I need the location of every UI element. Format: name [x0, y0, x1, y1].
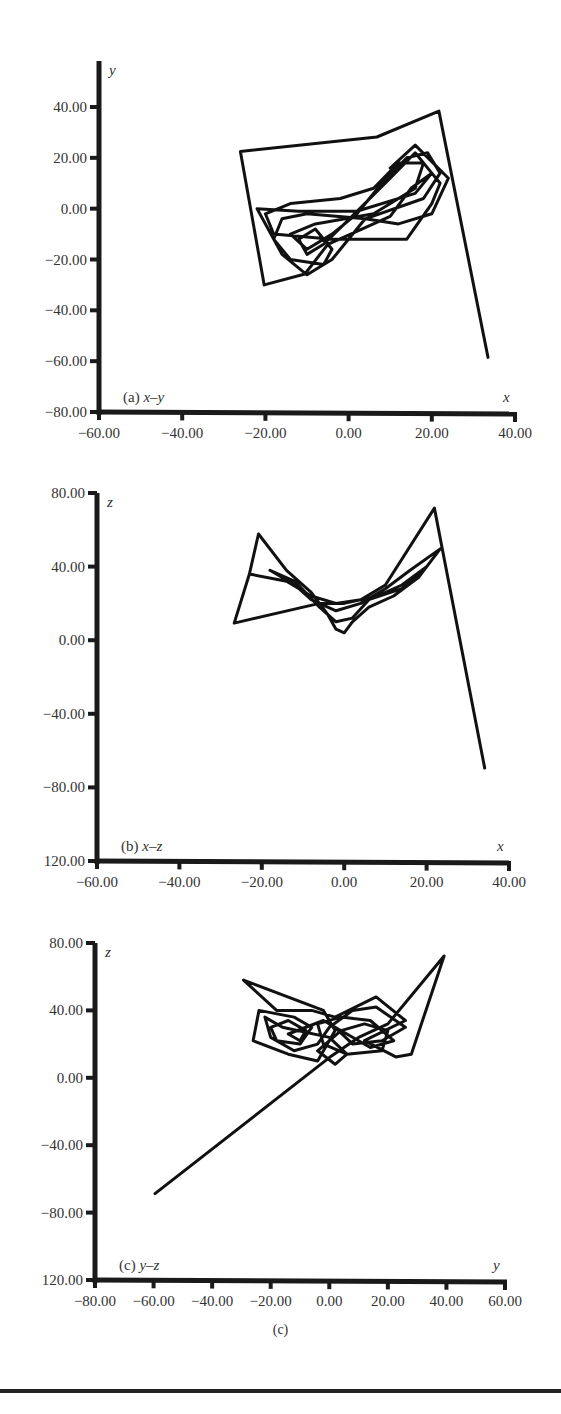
y-tick-label: −80.00 [41, 1205, 83, 1221]
trajectory-line [155, 956, 444, 1194]
x-tick-label: 60.00 [488, 1293, 522, 1309]
y-tick-label: 40.00 [49, 1002, 83, 1018]
chart-c-yz: 80.0040.000.00−40.00−80.00120.00−80.00−6… [0, 0, 561, 1320]
x-tick-label: −40.00 [191, 1293, 233, 1309]
x-tick-label: −20.00 [250, 1293, 292, 1309]
y-tick-label: −40.00 [41, 1137, 83, 1153]
figure-caption: (c) [0, 1322, 561, 1338]
panel-label: (c) y–z [119, 1257, 160, 1274]
y-tick-label: 120.00 [42, 1272, 83, 1288]
x-tick-label: −80.00 [74, 1293, 116, 1309]
y-tick-label: 0.00 [57, 1070, 83, 1086]
panel-c-yz: 80.0040.000.00−40.00−80.00120.00−80.00−6… [0, 0, 561, 1320]
x-tick-label: 20.00 [371, 1293, 405, 1309]
x-tick-label: −60.00 [132, 1293, 174, 1309]
divider-rule [0, 1389, 561, 1393]
x-axis-name: y [491, 1257, 500, 1273]
x-tick-label: 40.00 [430, 1293, 464, 1309]
y-tick-label: 80.00 [49, 935, 83, 951]
x-tick-label: 0.00 [316, 1293, 342, 1309]
y-axis-name: z [104, 944, 111, 960]
